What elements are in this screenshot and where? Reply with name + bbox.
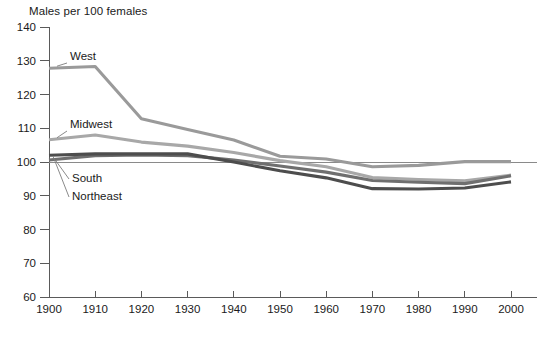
- x-tick-label: 1990: [452, 303, 478, 315]
- x-axis: 1900191019201930194019501960197019801990…: [36, 291, 537, 315]
- series-line-west: [49, 66, 511, 166]
- x-tick-label: 1970: [360, 303, 386, 315]
- y-tick-label: 90: [23, 190, 36, 202]
- y-tick-label: 60: [23, 291, 36, 303]
- x-tick-label: 1960: [313, 303, 339, 315]
- y-tick-label: 140: [17, 21, 36, 33]
- x-tick-label: 1910: [82, 303, 108, 315]
- line-chart-plot: 60708090100110120130140 1900191019201930…: [0, 0, 537, 337]
- series-labels-group: WestMidwestSouthNortheast: [53, 50, 123, 202]
- chart-container: Males per 100 females 607080901001101201…: [0, 0, 537, 337]
- x-tick-label: 1950: [267, 303, 293, 315]
- x-tick-label: 1920: [129, 303, 155, 315]
- y-axis: 60708090100110120130140: [17, 21, 49, 303]
- x-tick-label: 1900: [36, 303, 62, 315]
- series-label-west: West: [70, 50, 97, 62]
- x-tick-label: 1980: [406, 303, 432, 315]
- y-tick-label: 80: [23, 224, 36, 236]
- series-leader-west: [57, 63, 67, 66]
- series-label-south: South: [72, 172, 102, 184]
- y-tick-label: 120: [17, 89, 36, 101]
- y-tick-label: 110: [18, 122, 36, 134]
- x-tick-label: 1930: [175, 303, 201, 315]
- series-label-midwest: Midwest: [70, 118, 113, 130]
- series-label-northeast: Northeast: [72, 190, 123, 202]
- x-tick-label: 1940: [221, 303, 247, 315]
- y-tick-label: 70: [23, 257, 36, 269]
- y-tick-label: 100: [17, 156, 36, 168]
- series-line-midwest: [49, 135, 511, 181]
- x-tick-label: 2000: [498, 303, 524, 315]
- y-tick-label: 130: [17, 55, 36, 67]
- data-series-group: [49, 66, 511, 189]
